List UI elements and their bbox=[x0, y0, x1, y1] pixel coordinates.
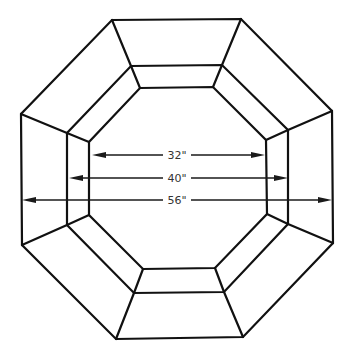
corner-spoke bbox=[112, 20, 140, 88]
corner-spoke bbox=[213, 19, 241, 87]
arrow-right-icon bbox=[274, 175, 288, 181]
corner-spoke bbox=[267, 214, 333, 243]
dimension-40in: 40" bbox=[69, 172, 288, 185]
dimension-label: 56" bbox=[167, 194, 186, 207]
arrow-left-icon bbox=[69, 175, 83, 181]
arrow-left-icon bbox=[92, 152, 106, 158]
corner-spoke bbox=[215, 268, 243, 337]
arrow-right-icon bbox=[318, 197, 332, 203]
octagon-diagram: 32"40"56" bbox=[0, 0, 353, 362]
corner-spoke bbox=[21, 114, 89, 142]
dimension-label: 40" bbox=[167, 172, 186, 185]
corner-spoke bbox=[266, 111, 332, 140]
corner-spoke bbox=[22, 215, 89, 245]
dimension-32in: 32" bbox=[92, 149, 265, 162]
arrow-left-icon bbox=[22, 197, 36, 203]
dimension-56in: 56" bbox=[22, 194, 332, 207]
dimension-label: 32" bbox=[167, 149, 186, 162]
arrow-right-icon bbox=[251, 152, 265, 158]
dimension-lines: 32"40"56" bbox=[22, 149, 332, 207]
